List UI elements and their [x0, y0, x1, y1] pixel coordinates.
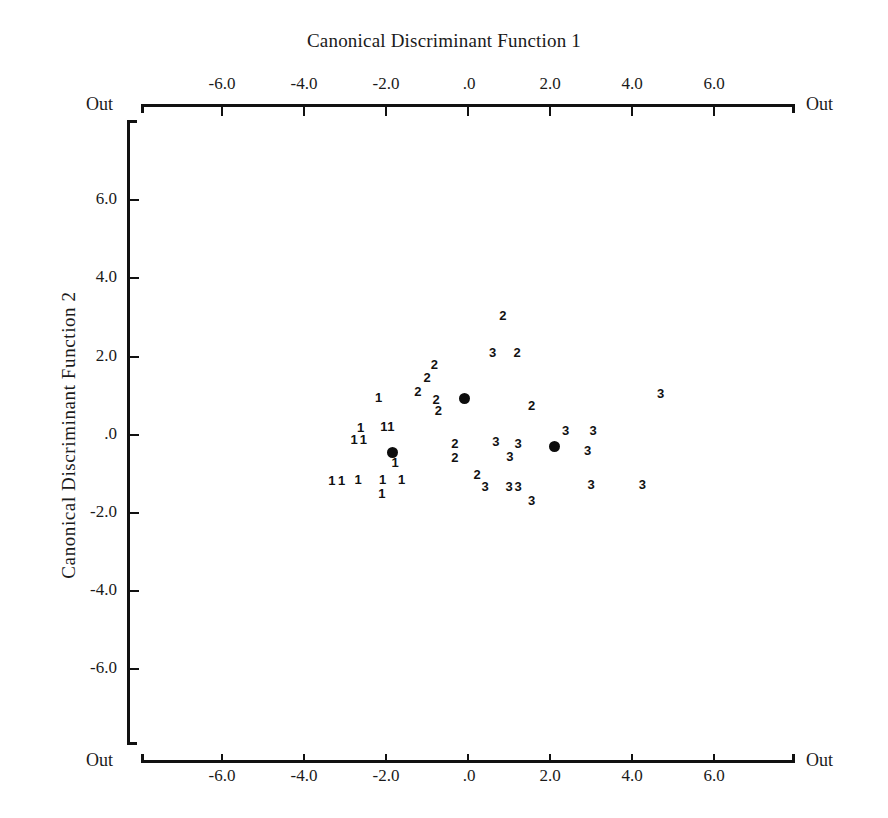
x-tick-label-bottom-2: -2.0	[356, 766, 416, 786]
x-tick-top-2	[549, 107, 551, 116]
y-tick-label-0: 6.0	[57, 189, 117, 209]
y-tick-label-1: 4.0	[57, 267, 117, 287]
x-tick-label-top-1: -4.0	[274, 74, 334, 94]
x-tick-label-bottom-0: -6.0	[192, 766, 252, 786]
y-tick-label-6: -6.0	[57, 658, 117, 678]
bottom-axis-line	[141, 760, 795, 763]
x-tick-label-bottom-1: -4.0	[274, 766, 334, 786]
data-point-group-3: 3	[634, 477, 650, 493]
x-tick-top--6	[221, 107, 223, 116]
x-tick-label-top-0: -6.0	[192, 74, 252, 94]
data-point-group-3: 3	[558, 423, 574, 439]
x-tick-top-6	[713, 107, 715, 116]
top-axis-right-cap	[792, 104, 795, 113]
data-point-group-3: 3	[502, 449, 518, 465]
data-point-group-1: 1	[350, 472, 366, 488]
left-axis-line	[127, 120, 130, 745]
out-marker-bottom-left: Out	[86, 750, 113, 771]
data-point-group-2: 2	[495, 308, 511, 324]
y-tick-label-2: 2.0	[57, 346, 117, 366]
y-tick-label-4: -2.0	[57, 502, 117, 522]
y-tick--6	[130, 668, 139, 670]
chart-title: Canonical Discriminant Function 1	[0, 30, 888, 52]
data-point-group-2: 2	[447, 450, 463, 466]
data-point-group-1: 1	[371, 390, 387, 406]
x-tick-top--2	[385, 107, 387, 116]
out-marker-top-left: Out	[86, 94, 113, 115]
out-marker-bottom-right: Out	[806, 750, 833, 771]
x-tick-top--4	[303, 107, 305, 116]
data-point-group-3: 3	[653, 386, 669, 402]
data-point-group-1: 1	[383, 419, 399, 435]
y-tick-6	[130, 199, 139, 201]
x-tick-label-bottom-3: .0	[439, 766, 499, 786]
x-tick-label-top-6: 6.0	[684, 74, 744, 94]
x-tick-label-bottom-5: 4.0	[602, 766, 662, 786]
top-axis-left-cap	[141, 104, 144, 113]
x-tick-label-top-3: .0	[439, 74, 499, 94]
plot-area	[141, 118, 795, 754]
data-point-group-2: 2	[430, 403, 446, 419]
x-tick-label-bottom-6: 6.0	[684, 766, 744, 786]
data-point-group-1: 1	[334, 473, 350, 489]
data-point-group-3: 3	[477, 479, 493, 495]
y-tick-2	[130, 356, 139, 358]
data-point-group-2: 2	[410, 384, 426, 400]
y-tick-4	[130, 277, 139, 279]
data-point-group-1: 1	[374, 486, 390, 502]
y-tick-label-3: .0	[57, 424, 117, 444]
data-point-group-2: 2	[509, 345, 525, 361]
x-tick-label-top-2: -2.0	[356, 74, 416, 94]
data-point-group-3: 3	[580, 443, 596, 459]
y-tick-label-5: -4.0	[57, 580, 117, 600]
group-centroid-1	[387, 447, 398, 458]
y-tick--4	[130, 590, 139, 592]
data-point-group-3: 3	[585, 423, 601, 439]
x-tick-label-bottom-4: 2.0	[520, 766, 580, 786]
y-tick--2	[130, 512, 139, 514]
data-point-group-3: 3	[524, 493, 540, 509]
data-point-group-1: 1	[394, 472, 410, 488]
data-point-group-3: 3	[485, 345, 501, 361]
out-marker-top-right: Out	[806, 94, 833, 115]
y-tick-0	[130, 434, 139, 436]
data-point-group-3: 3	[583, 477, 599, 493]
data-point-group-2: 2	[524, 398, 540, 414]
scatter-plot-figure: Canonical Discriminant Function 1 Canoni…	[0, 0, 888, 818]
left-axis-bottom-cap	[127, 742, 137, 745]
x-tick-label-top-5: 4.0	[602, 74, 662, 94]
data-point-group-1: 1	[355, 432, 371, 448]
left-axis-top-cap	[127, 120, 137, 123]
x-tick-label-top-4: 2.0	[520, 74, 580, 94]
x-tick-top-4	[631, 107, 633, 116]
x-tick-top-0	[467, 107, 469, 116]
